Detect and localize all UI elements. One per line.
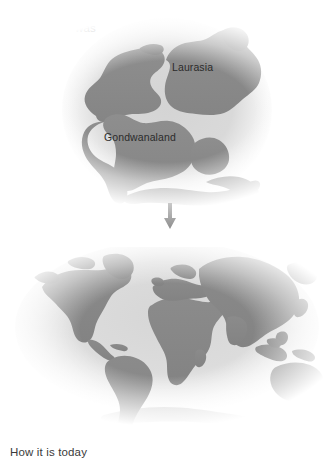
map-label-laurasia: Laurasia (172, 61, 213, 73)
map-label-gondwanaland: Gondwanaland (104, 131, 176, 143)
modern-vignette (0, 247, 334, 427)
pangaea-vignette (0, 14, 334, 209)
modern-world-map (0, 247, 334, 427)
pangaea-map (0, 14, 334, 209)
modern-world-svg (0, 247, 334, 427)
pangaea-svg (0, 14, 334, 209)
panel-how-it-once-was: How it once was (0, 0, 334, 215)
caption-how-it-is-today: How it is today (10, 446, 87, 458)
